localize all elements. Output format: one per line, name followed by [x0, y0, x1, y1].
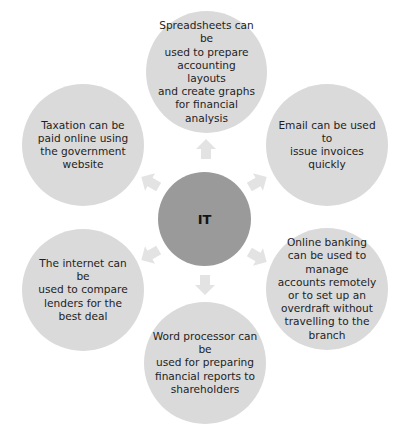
node-internet: The internet can be used to compare lend… — [22, 229, 144, 351]
node-line: paid online using — [38, 132, 129, 145]
node-taxation: Taxation can be paid online using the go… — [22, 84, 144, 206]
node-line: shareholders — [150, 383, 260, 396]
node-line: Word processor can be — [150, 330, 260, 356]
node-email: Email can be used to issue invoices quic… — [266, 84, 388, 206]
node-line: or to set up an — [270, 289, 384, 302]
node-line: used to compare — [34, 283, 132, 296]
node-line: the government — [38, 145, 129, 158]
arrow-down-icon — [194, 274, 216, 296]
arrow-down-right-icon — [243, 242, 273, 272]
it-uses-diagram: Spreadsheets can be used to prepare acco… — [0, 0, 400, 436]
node-line: accounting layouts — [158, 59, 255, 85]
node-line: issue invoices — [278, 145, 376, 158]
node-spreadsheets: Spreadsheets can be used to prepare acco… — [146, 11, 267, 133]
node-line: best deal — [34, 310, 132, 323]
node-line: used to prepare — [158, 46, 255, 59]
node-line: financial reports to — [150, 370, 260, 383]
node-online-banking: Online banking can be used to manage acc… — [266, 228, 388, 350]
center-node-it: IT — [158, 172, 251, 266]
node-line: and create graphs — [158, 85, 255, 98]
node-line: Taxation can be — [38, 119, 129, 132]
node-line: used for preparing — [150, 356, 260, 369]
node-word-processor: Word processor can be used for preparing… — [144, 302, 266, 424]
node-line: for financial — [158, 98, 255, 111]
node-line: overdraft without — [270, 302, 384, 315]
node-line: lenders for the — [34, 297, 132, 310]
node-line: Spreadsheets can be — [158, 19, 255, 45]
arrow-up-right-icon — [243, 167, 273, 197]
arrow-down-left-icon — [135, 240, 165, 270]
node-line: The internet can be — [34, 257, 132, 283]
node-line: website — [38, 158, 129, 171]
node-line: can be used to manage — [270, 249, 384, 275]
node-line: branch — [270, 329, 384, 342]
node-line: analysis — [158, 112, 255, 125]
node-line: accounts remotely — [270, 276, 384, 289]
center-label: IT — [198, 212, 212, 227]
node-line: quickly — [278, 158, 376, 171]
node-line: Email can be used to — [278, 119, 376, 145]
node-line: Online banking — [270, 236, 384, 249]
arrow-up-left-icon — [135, 167, 165, 197]
arrow-up-icon — [195, 138, 217, 160]
node-line: travelling to the — [270, 315, 384, 328]
